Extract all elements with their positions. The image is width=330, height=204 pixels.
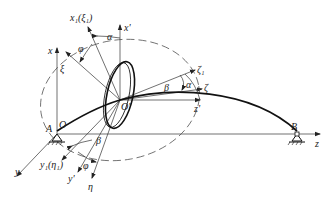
label-y: y: [14, 166, 20, 177]
deflected-shaft: [57, 92, 297, 131]
label-z: z: [314, 138, 319, 149]
angle-arcs: [72, 36, 200, 162]
label-O-prime: O': [121, 101, 131, 112]
rotor-coordinate-diagram: x₁(ξ₁) x' x ξ φ α ζ₁ ζ β α z' O' O A B z…: [0, 0, 330, 204]
label-alpha-top: α: [107, 31, 113, 42]
label-beta-right: β: [163, 82, 169, 93]
label-zeta1: ζ₁: [197, 64, 205, 76]
label-phi-top: φ: [78, 43, 84, 54]
pin-support-A: [48, 134, 65, 145]
diagram-svg: x₁(ξ₁) x' x ξ φ α ζ₁ ζ β α z' O' O A B z…: [0, 0, 330, 204]
label-zeta: ζ: [204, 82, 209, 94]
label-A: A: [45, 123, 53, 134]
label-beta-bottom: β: [95, 135, 101, 146]
label-x1-xi1: x₁(ξ₁): [69, 12, 93, 24]
rotor-disc: [98, 59, 139, 131]
label-eta: η: [88, 181, 93, 192]
label-x-prime: x': [123, 22, 131, 33]
label-B: B: [291, 121, 297, 132]
label-x: x: [47, 45, 53, 56]
x1-axis: [88, 27, 120, 100]
label-y-prime: y': [67, 173, 75, 184]
label-y1-eta1: y₁(η₁): [39, 159, 64, 171]
label-phi-bottom: φ: [83, 160, 89, 171]
beta-right-arc: [180, 75, 184, 90]
label-xi: ξ: [60, 63, 65, 75]
label-alpha-right: α: [186, 79, 192, 90]
beta-bottom-arc: [72, 140, 92, 146]
label-O: O: [59, 119, 66, 130]
label-z-prime: z': [193, 103, 201, 114]
